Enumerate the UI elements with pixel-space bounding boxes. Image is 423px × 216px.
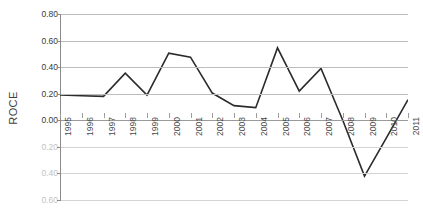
x-tick-mark: [343, 113, 344, 118]
x-tick-label: 2002: [216, 117, 225, 169]
x-tick-mark: [191, 113, 192, 118]
roce-line-chart: ROCE 0.800.600.400.200.000.200.400.60 19…: [0, 0, 423, 216]
y-tick-label: 0.20: [24, 143, 58, 152]
x-tick-label: 2007: [325, 117, 334, 169]
x-tick-label: 2008: [347, 117, 356, 169]
series-roce-line: [60, 14, 408, 200]
y-axis-title: ROCE: [2, 0, 24, 216]
y-tick-mark: [57, 94, 61, 95]
y-axis-title-label: ROCE: [7, 91, 19, 124]
x-tick-label: 2003: [238, 117, 247, 169]
x-tick-label: 1999: [151, 117, 160, 169]
x-tick-mark: [125, 113, 126, 118]
x-tick-label: 2006: [303, 117, 312, 169]
y-axis-tick-labels: 0.800.600.400.200.000.200.400.60: [22, 0, 58, 216]
x-tick-label: 1995: [64, 117, 73, 169]
y-tick-mark: [57, 41, 61, 42]
x-tick-label: 1996: [86, 117, 95, 169]
x-tick-mark: [169, 113, 170, 118]
x-tick-mark: [82, 113, 83, 118]
y-tick-label: 0.80: [24, 10, 58, 19]
gridline: [60, 14, 408, 15]
gridline: [60, 94, 408, 95]
y-tick-label: 0.00: [24, 116, 58, 125]
x-tick-mark: [365, 113, 366, 118]
x-axis-tick-labels: 1995199619971998199920002001200220032004…: [60, 119, 408, 171]
gridline: [60, 173, 408, 174]
gridline: [60, 200, 408, 201]
x-tick-label: 2011: [412, 117, 421, 169]
x-tick-mark: [104, 113, 105, 118]
x-tick-mark: [212, 113, 213, 118]
x-tick-mark: [408, 113, 409, 118]
y-tick-label: 0.40: [24, 169, 58, 178]
y-tick-label: 0.40: [24, 63, 58, 72]
x-tick-mark: [321, 113, 322, 118]
x-tick-label: 1998: [129, 117, 138, 169]
x-tick-mark: [256, 113, 257, 118]
plot-area: [60, 14, 408, 200]
y-tick-label: 0.20: [24, 90, 58, 99]
x-tick-label: 2005: [282, 117, 291, 169]
x-tick-mark: [299, 113, 300, 118]
y-tick-mark: [57, 14, 61, 15]
x-tick-mark: [386, 113, 387, 118]
y-tick-label: 0.60: [24, 37, 58, 46]
gridline: [60, 41, 408, 42]
y-tick-mark: [57, 67, 61, 68]
x-tick-label: 1997: [108, 117, 117, 169]
gridline: [60, 67, 408, 68]
x-tick-label: 2004: [260, 117, 269, 169]
y-tick-mark: [57, 200, 61, 201]
x-tick-label: 2001: [195, 117, 204, 169]
y-tick-mark: [57, 173, 61, 174]
x-tick-label: 2009: [369, 117, 378, 169]
x-tick-label: 2000: [173, 117, 182, 169]
x-tick-mark: [60, 113, 61, 118]
y-tick-label: 0.60: [24, 196, 58, 205]
x-tick-mark: [278, 113, 279, 118]
x-tick-mark: [147, 113, 148, 118]
x-tick-label: 2010: [390, 117, 399, 169]
x-tick-mark: [234, 113, 235, 118]
